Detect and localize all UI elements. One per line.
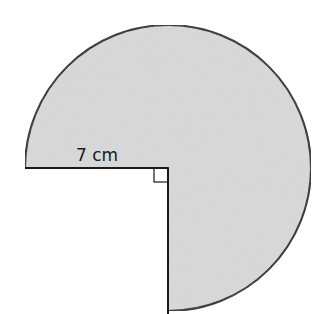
right-angle-marker xyxy=(154,168,168,182)
radius-label: 7 cm xyxy=(76,145,118,165)
sector-diagram: 7 cm xyxy=(0,0,315,314)
